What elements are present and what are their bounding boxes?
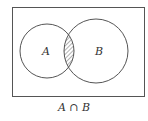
set-a-label: A <box>41 45 50 58</box>
universe-rectangle <box>13 8 145 97</box>
set-b-label: B <box>94 45 103 58</box>
diagram-caption: A ∩ B <box>0 101 148 114</box>
